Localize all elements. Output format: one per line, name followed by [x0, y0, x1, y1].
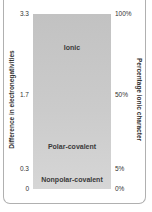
- left-tick-1-7: 1.7: [20, 91, 29, 98]
- right-tick-5: 5%: [115, 165, 124, 172]
- right-tick-50: 50%: [115, 91, 128, 98]
- right-axis-label: Percentage ionic character: [136, 40, 143, 160]
- region-ionic: Ionic: [33, 44, 111, 51]
- bond-type-bar: Ionic Polar-covalent Nonpolar-covalent: [33, 14, 111, 189]
- left-axis-label: Difference in electronegativities: [8, 40, 15, 160]
- region-nonpolar-covalent: Nonpolar-covalent: [33, 176, 111, 183]
- right-tick-100: 100%: [115, 10, 132, 17]
- left-tick-0-3: 0.3: [20, 165, 29, 172]
- left-tick-3-3: 3.3: [20, 10, 29, 17]
- region-polar-covalent: Polar-covalent: [33, 143, 111, 150]
- right-tick-0: 0%: [115, 185, 124, 192]
- left-tick-0: 0: [25, 185, 29, 192]
